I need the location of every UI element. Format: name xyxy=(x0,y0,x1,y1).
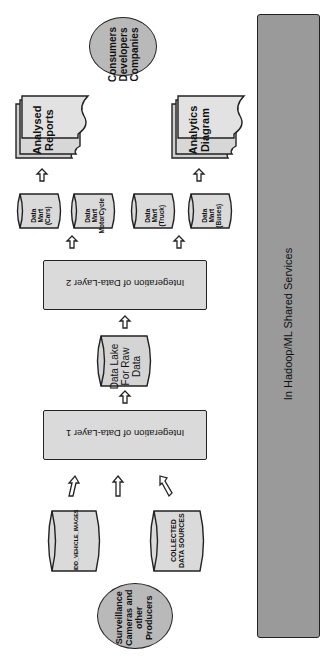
data-mart-cars-label: Data Mart (Cars) xyxy=(30,193,51,239)
arrow-up-icon xyxy=(66,475,80,497)
data-mart-truck-label: Data Mart (Truck) xyxy=(144,193,165,239)
consumers-label: Consumers Developers Companies xyxy=(107,15,140,95)
data-mart-motorcycle-label: Data Mart MotorCycle xyxy=(84,193,105,239)
arrow-up-icon xyxy=(193,168,205,182)
arrow-up-icon xyxy=(36,168,48,182)
arrow-up-icon xyxy=(66,235,78,249)
idd-vehicle-images-label: IDD_VEHICLE_IMAGES xyxy=(73,500,79,580)
analytics-diagram-label: Analytics Diagram xyxy=(187,95,211,165)
arrow-up-icon xyxy=(119,315,131,329)
arrow-up-icon xyxy=(112,475,124,497)
analysed-reports-label: Analysed Reports xyxy=(31,95,55,165)
arrow-up-icon xyxy=(119,390,131,404)
collected-data-sources-label: COLLECTED DATA SOURCES xyxy=(170,501,185,581)
integration-layer-2-label: Integeration of Data-Layer 2 xyxy=(43,278,207,288)
data-lake-label: Data Lake For Raw Data xyxy=(109,336,142,398)
arrow-up-icon xyxy=(173,235,185,249)
shared-services-label: In Hadoop/ML Shared Services xyxy=(282,174,294,474)
arrow-up-icon xyxy=(157,475,173,497)
data-mart-buses-label: Data Mart (Buses) xyxy=(201,193,222,239)
integration-layer-1-label: Integeration of Data-Layer 1 xyxy=(43,428,207,438)
producers-label: Surveillance Cameras and other Producers xyxy=(115,573,155,658)
